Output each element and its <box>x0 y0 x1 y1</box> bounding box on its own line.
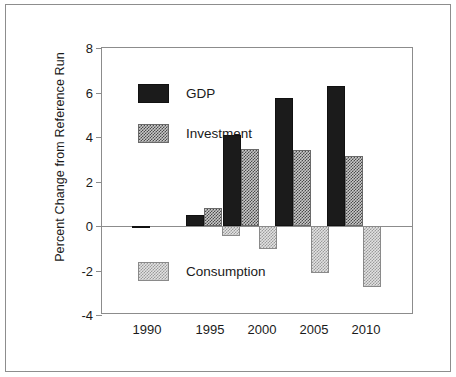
bar-investment-2000 <box>241 149 259 226</box>
legend-item-gdp: GDP <box>138 84 215 103</box>
x-tick-label-2010: 2010 <box>352 322 381 337</box>
y-tick-label-8: 8 <box>86 41 93 56</box>
plot-area: 8 6 4 2 0 -2 -4 1990 <box>101 47 413 314</box>
y-tick-label-2: 2 <box>86 174 93 189</box>
y-tick-8 <box>96 48 102 49</box>
legend-label-investment: Investment <box>186 126 252 141</box>
bar-gdp-2005 <box>275 98 293 226</box>
y-tick-label-0: 0 <box>86 219 93 234</box>
legend-label-gdp: GDP <box>186 86 215 101</box>
bar-gdp-2000 <box>223 135 241 226</box>
legend-swatch-gdp-icon <box>138 84 169 103</box>
bar-investment-2010 <box>345 156 363 226</box>
bar-consumption-1995 <box>222 226 240 236</box>
y-tick-label-minus4: -4 <box>81 308 93 323</box>
bar-consumption-2000 <box>259 226 277 249</box>
x-tick-label-1990: 1990 <box>133 322 162 337</box>
bar-consumption-2010 <box>363 226 381 287</box>
bar-gdp-1990 <box>132 226 150 228</box>
x-tick-label-2005: 2005 <box>300 322 329 337</box>
y-axis-title: Percent Change from Reference Run <box>53 27 67 287</box>
y-tick-minus4 <box>96 315 102 316</box>
y-tick-4 <box>96 137 102 138</box>
bar-consumption-2005 <box>311 226 329 273</box>
chart-figure: Percent Change from Reference Run 8 6 4 … <box>0 0 456 377</box>
bar-gdp-1995 <box>186 215 204 226</box>
y-tick-label-6: 6 <box>86 85 93 100</box>
bar-investment-1995 <box>204 208 222 226</box>
legend-item-investment: Investment <box>138 124 252 143</box>
legend-item-consumption: Consumption <box>138 262 266 281</box>
legend-swatch-consumption-icon <box>138 262 169 281</box>
legend-label-consumption: Consumption <box>186 264 266 279</box>
y-tick-minus2 <box>96 271 102 272</box>
y-tick-6 <box>96 93 102 94</box>
x-tick-label-2000: 2000 <box>248 322 277 337</box>
y-tick-label-4: 4 <box>86 130 93 145</box>
x-tick-label-1995: 1995 <box>196 322 225 337</box>
bar-gdp-2010 <box>327 86 345 226</box>
bar-investment-2005 <box>293 150 311 226</box>
legend-swatch-investment-icon <box>138 124 169 143</box>
y-tick-label-minus2: -2 <box>81 263 93 278</box>
y-tick-2 <box>96 182 102 183</box>
